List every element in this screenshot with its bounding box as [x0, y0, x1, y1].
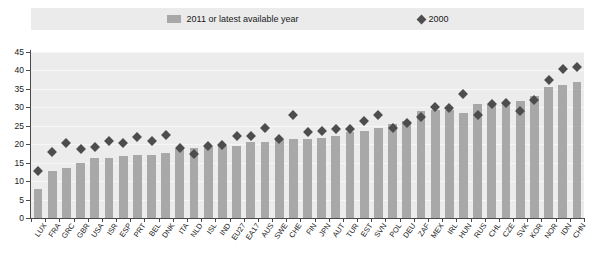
bar: [388, 124, 397, 218]
bar: [147, 155, 156, 218]
bar-column: [175, 52, 184, 218]
bar: [360, 131, 369, 218]
bar: [119, 156, 128, 218]
bar: [76, 163, 85, 218]
legend-item-dot-series: 2000: [418, 15, 448, 24]
x-tick-label: EST: [360, 222, 375, 239]
bar: [317, 138, 326, 218]
bar-column: [62, 52, 71, 218]
y-tick-mark: [26, 107, 30, 108]
bar-column: [119, 52, 128, 218]
y-tick-mark: [26, 200, 30, 201]
bar: [62, 168, 71, 218]
x-tick-label: ESP: [119, 222, 134, 239]
x-tick-label: NLD: [189, 222, 204, 239]
bar-column: [204, 52, 213, 218]
y-tick-label: 25: [0, 122, 24, 130]
y-tick-mark: [26, 89, 30, 90]
y-tick-label: 20: [0, 140, 24, 148]
bar-column: [459, 52, 468, 218]
x-tick-label: CHL: [487, 222, 502, 239]
bar-column: [289, 52, 298, 218]
bar-column: [573, 52, 582, 218]
bar: [275, 139, 284, 218]
legend-label-dot-series: 2000: [428, 15, 448, 24]
bar: [48, 171, 57, 218]
x-tick-label: DEU: [402, 222, 418, 240]
bar: [374, 128, 383, 218]
legend-label-bar-series: 2011 or latest available year: [187, 15, 299, 24]
y-tick-mark: [26, 70, 30, 71]
bar-column: [388, 52, 397, 218]
y-tick-mark: [26, 144, 30, 145]
bar-column: [105, 52, 114, 218]
bar-swatch-icon: [167, 15, 181, 23]
bar-column: [48, 52, 57, 218]
x-tick-label: LUX: [34, 222, 49, 239]
bar: [544, 87, 553, 218]
bar: [431, 110, 440, 218]
x-tick-label: EA17: [244, 222, 261, 242]
chart-root: 2011 or latest available year 2000 05101…: [0, 0, 598, 261]
bar: [133, 155, 142, 218]
bar-column: [331, 52, 340, 218]
y-tick-mark: [26, 52, 30, 53]
x-tick-label: GBR: [75, 222, 91, 240]
bar-column: [34, 52, 43, 218]
bar: [445, 110, 454, 218]
bar: [161, 153, 170, 218]
bar: [417, 111, 426, 218]
bar: [232, 146, 241, 218]
y-tick-label: 10: [0, 177, 24, 185]
x-tick-mark: [584, 218, 585, 222]
x-tick-label: CHN: [572, 222, 588, 240]
bar-column: [218, 52, 227, 218]
x-tick-label: AUT: [331, 222, 346, 239]
y-tick-mark: [26, 181, 30, 182]
y-tick-label: 45: [0, 48, 24, 56]
bar-column: [76, 52, 85, 218]
x-tick-label: MEX: [430, 222, 446, 240]
bars-layer: [31, 52, 584, 218]
bar-column: [346, 52, 355, 218]
bar-column: [487, 52, 496, 218]
diamond-marker-icon: [417, 14, 427, 24]
x-tick-label: RUS: [473, 222, 489, 240]
x-tick-label: ZAF: [417, 222, 432, 238]
x-tick-label: GRC: [61, 222, 77, 240]
y-tick-label: 0: [0, 214, 24, 222]
x-tick-label: CHE: [288, 222, 304, 240]
bar: [487, 104, 496, 218]
x-tick-label: BEL: [147, 222, 162, 238]
x-tick-label: HUN: [458, 222, 474, 240]
x-tick-label: USA: [90, 222, 105, 239]
bar-column: [417, 52, 426, 218]
bar-column: [402, 52, 411, 218]
bar: [573, 82, 582, 218]
x-tick-label: TUR: [345, 222, 360, 239]
bar-column: [445, 52, 454, 218]
bar: [289, 139, 298, 218]
bar-column: [473, 52, 482, 218]
bar: [346, 132, 355, 218]
bar: [90, 158, 99, 218]
legend-item-bar-series: 2011 or latest available year: [167, 15, 299, 24]
bar: [261, 142, 270, 218]
x-tick-label: ISL: [206, 222, 219, 236]
bar: [459, 113, 468, 218]
bar-column: [374, 52, 383, 218]
chart-legend: 2011 or latest available year 2000: [31, 8, 584, 30]
bar-column: [530, 52, 539, 218]
y-tick-mark: [26, 126, 30, 127]
bar-column: [516, 52, 525, 218]
bar: [218, 146, 227, 218]
y-tick-label: 5: [0, 196, 24, 204]
y-tick-label: 30: [0, 103, 24, 111]
y-tick-label: 40: [0, 66, 24, 74]
bar: [246, 142, 255, 218]
x-tick-label: JPN: [318, 222, 333, 238]
x-axis-labels: LUXFRAGRCGBRUSAISRESPPRTBELDNKITANLDISLI…: [31, 222, 584, 261]
y-tick-mark: [26, 218, 30, 219]
bar-column: [558, 52, 567, 218]
bar: [530, 96, 539, 218]
